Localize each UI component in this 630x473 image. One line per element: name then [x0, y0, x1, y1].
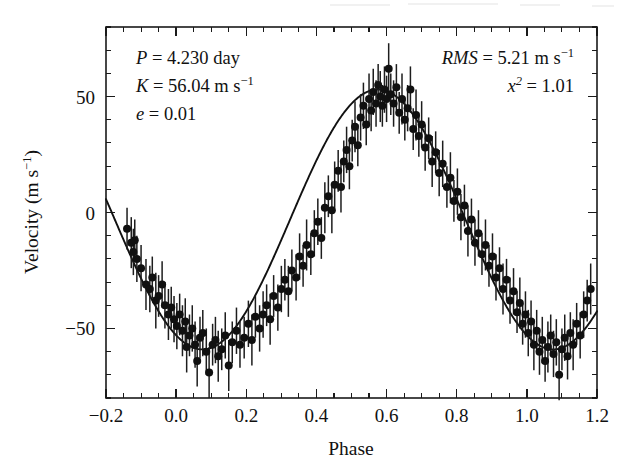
data-point: [221, 331, 229, 339]
data-point: [541, 357, 549, 365]
data-point: [232, 327, 240, 335]
data-point: [263, 301, 271, 309]
data-point: [415, 132, 423, 140]
x-tick-label: 0.6: [375, 405, 399, 426]
data-point: [412, 111, 420, 119]
data-point: [307, 250, 315, 258]
x-tick-label: 1.0: [515, 405, 539, 426]
data-point: [421, 144, 429, 152]
y-axis-title-group: Velocity (m s−1): [20, 150, 43, 274]
data-point: [365, 95, 373, 103]
x-axis-title: Phase: [328, 438, 374, 459]
annotation-rms: RMS = 5.21 m s−1: [441, 46, 574, 68]
y-axis-title: Velocity (m s−1): [20, 150, 43, 274]
data-point: [158, 280, 166, 288]
data-point: [148, 273, 156, 281]
data-point: [155, 292, 163, 300]
data-point: [225, 362, 233, 370]
data-point: [199, 329, 207, 337]
data-point: [248, 336, 256, 344]
data-point: [211, 336, 219, 344]
data-point: [506, 297, 514, 305]
x-tick-label: 0.8: [445, 405, 469, 426]
data-point: [146, 285, 154, 293]
data-point: [474, 229, 482, 237]
parameter-annotation-left: P = 4.230 dayK = 56.04 m s−1e = 0.01: [135, 48, 254, 124]
data-point: [362, 120, 370, 128]
data-point: [357, 113, 365, 121]
annotation-period: P = 4.230 day: [135, 48, 241, 68]
data-point: [185, 331, 193, 339]
data-point: [481, 241, 489, 249]
data-point: [359, 102, 367, 110]
data-point: [193, 357, 201, 365]
data-point: [521, 311, 529, 319]
data-point: [181, 317, 189, 325]
data-point: [202, 348, 210, 356]
data-point: [178, 327, 186, 335]
data-point: [573, 320, 581, 328]
data-point: [314, 218, 322, 226]
data-point: [392, 83, 400, 91]
data-point: [321, 204, 329, 212]
annotation-eccentricity: e = 0.01: [136, 104, 196, 124]
data-point: [428, 157, 436, 165]
y-tick-label: −50: [65, 318, 95, 339]
data-point: [533, 327, 541, 335]
data-point: [566, 329, 574, 337]
data-point: [328, 206, 336, 214]
data-point: [450, 197, 458, 205]
data-point: [310, 229, 318, 237]
data-point: [337, 183, 345, 191]
data-point: [317, 234, 325, 242]
x-tick-label: 0.2: [234, 405, 258, 426]
data-point: [478, 250, 486, 258]
data-point: [583, 297, 591, 305]
data-point: [499, 285, 507, 293]
data-point: [334, 167, 342, 175]
data-point: [398, 95, 406, 103]
y-axis-tick-labels: −50050: [65, 87, 95, 340]
data-point: [228, 338, 236, 346]
data-point: [256, 324, 264, 332]
scan-artifact: [330, 3, 614, 7]
data-point: [345, 162, 353, 170]
data-point: [524, 329, 532, 337]
data-point: [251, 313, 259, 321]
data-point: [183, 343, 191, 351]
data-point: [576, 331, 584, 339]
data-point: [530, 341, 538, 349]
data-point: [343, 146, 351, 154]
data-point: [558, 345, 566, 353]
data-point: [401, 116, 409, 124]
data-point: [378, 102, 386, 110]
data-point: [191, 341, 199, 349]
data-point: [284, 287, 292, 295]
x-tick-label: 0.0: [164, 405, 188, 426]
data-point: [435, 169, 443, 177]
data-point: [369, 88, 377, 96]
data-point: [131, 236, 139, 244]
x-tick-label: −0.2: [89, 405, 123, 426]
data-point: [266, 315, 274, 323]
data-point: [129, 248, 137, 256]
x-tick-label: 0.4: [305, 405, 329, 426]
data-point: [409, 125, 417, 133]
data-point: [527, 317, 535, 325]
x-axis-tick-labels: −0.20.00.20.40.60.81.01.2: [89, 405, 609, 426]
annotation-chi-squared: x2 = 1.01: [506, 74, 574, 96]
data-point: [587, 285, 595, 293]
data-point: [496, 264, 504, 272]
data-point: [460, 202, 468, 210]
data-point: [544, 343, 552, 351]
data-point: [457, 213, 465, 221]
data-point: [550, 350, 558, 358]
data-point: [205, 368, 213, 376]
data-point: [555, 371, 563, 379]
data-point: [418, 120, 426, 128]
data-point: [303, 241, 311, 249]
data-point: [538, 336, 546, 344]
data-point: [464, 227, 472, 235]
data-point: [580, 311, 588, 319]
data-point: [299, 262, 307, 270]
